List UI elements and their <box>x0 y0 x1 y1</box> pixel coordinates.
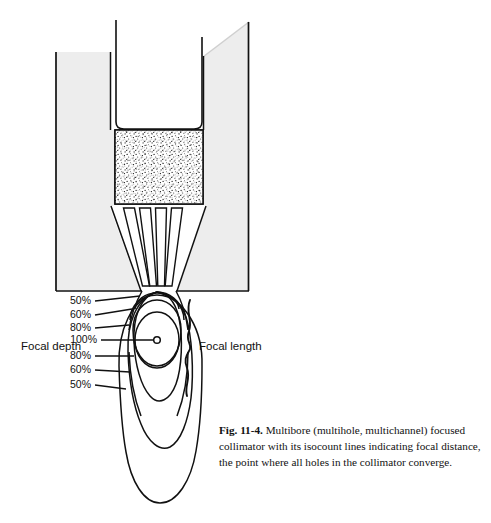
isocount-label-60-lower: 60% <box>70 363 91 375</box>
light-guide-channel <box>116 20 202 129</box>
isocount-label-80-upper: 80% <box>70 321 91 333</box>
bore-channel-4 <box>165 208 182 286</box>
isocount-label-50-lower: 50% <box>70 378 91 390</box>
focal-depth-label: Focal depth <box>21 340 81 352</box>
bore-channel-3 <box>156 208 167 286</box>
isocount-label-60-upper: 60% <box>70 308 91 320</box>
figure-root: 50% 60% 80% 100% 80% 60% 50% Focal depth… <box>0 0 491 523</box>
u-channel-outline <box>116 20 202 129</box>
focal-length-label: Focal length <box>199 340 262 352</box>
leader-line-60-upper <box>95 309 132 315</box>
focal-point-circle <box>154 337 161 344</box>
isocount-label-50-upper: 50% <box>70 294 91 306</box>
scintillation-crystal <box>115 130 203 204</box>
leader-line-50-upper <box>95 296 140 301</box>
figure-number: Fig. 11-4. <box>219 424 263 436</box>
figure-caption: Fig. 11-4. Multibore (multihole, multich… <box>219 423 481 471</box>
focal-point-marker <box>154 337 161 344</box>
crystal-stipple-texture <box>115 130 203 204</box>
